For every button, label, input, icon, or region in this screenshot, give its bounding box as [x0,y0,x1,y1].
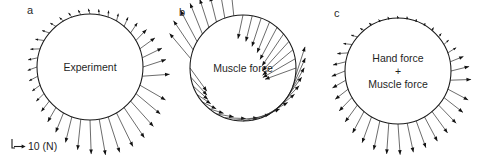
panel-c: cHand force+Muscle force [332,7,471,155]
force-vector-head [126,17,128,20]
force-vector-head [453,48,456,51]
force-vector-head [411,147,415,152]
force-vector-head [107,11,109,14]
force-vector-head [165,73,170,77]
force-vector-head [88,9,90,12]
force-vector-head [28,68,31,70]
force-vector-head [157,48,162,52]
force-vector-head [260,55,264,60]
panel-a: aExperiment [27,4,170,155]
panel-caption-c: Muscle force [368,78,428,90]
force-vector-head [302,47,305,52]
force-vector-shaft [90,120,91,154]
force-vector-head [203,86,207,91]
figure-canvas: aExperimentbMuscle forcecHand force+Musc… [0,0,477,167]
force-vector-head [337,52,340,55]
force-vector-head [463,96,468,100]
force-vector-head [206,100,211,104]
force-field-figure: aExperimentbMuscle forcecHand force+Musc… [0,0,477,167]
force-vector-head [76,145,80,150]
panel-caption-a: Experiment [63,61,116,73]
force-vector-head [161,96,166,100]
force-vector-shaft [108,117,120,153]
force-vector-shaft [99,119,105,155]
force-vector-head [56,127,59,132]
force-vector-head [362,138,365,143]
force-vector-head [219,110,224,113]
force-vector-head [302,58,306,63]
force-vector-shaft [170,34,191,59]
force-vector-shaft [174,21,194,50]
force-vector-head [190,3,193,8]
force-vector-head [252,41,255,46]
force-vector-head [335,95,340,99]
force-vector-head [257,48,260,53]
force-vector-head [332,84,337,88]
force-vector-head [345,117,349,122]
force-vector-shaft [210,0,216,22]
force-vector-head [199,0,202,4]
force-vector-head [458,108,463,112]
panel-caption-c: Hand force [372,52,424,64]
force-vector-head [50,23,53,25]
force-vector-head [161,59,166,62]
force-vector-shaft [260,27,277,59]
force-vector-shaft [221,0,225,18]
force-vector-shaft [398,124,400,155]
force-vector-head [423,143,426,148]
force-vector-head [332,73,337,76]
force-vector-head [373,145,377,150]
panel-label-b: b [179,6,185,18]
force-vector-head [443,128,447,133]
force-vector-shaft [200,0,209,27]
force-vectors-b [170,0,306,121]
force-vector-shaft [124,108,144,138]
panel-label-a: a [27,4,34,16]
force-vector-head [129,142,133,147]
force-vector-head [360,28,363,30]
force-vector-head [117,147,120,152]
force-vector-head [140,133,144,138]
force-vector-head [29,78,32,80]
force-vectors-a [28,9,170,155]
force-vector-head [174,21,178,26]
force-vector-head [211,105,216,109]
force-vector-head [42,30,45,32]
force-vector-shaft [387,123,389,154]
scale-bar-label: 10 (N) [28,140,57,152]
scale-bar-arrow-head [22,145,26,149]
force-vector-head [351,35,354,37]
force-vector-head [459,56,464,59]
force-vector-shaft [117,113,133,147]
scale-bar: 10 (N) [12,139,57,152]
force-vector-head [134,23,137,27]
force-vector-head [385,149,389,154]
force-vector-head [466,78,471,82]
force-vector-head [89,149,93,154]
force-vector-head [30,48,33,50]
force-vector-head [150,38,155,42]
force-vector-head [48,117,52,122]
force-vector-head [78,10,80,13]
force-vector-head [353,128,357,133]
force-vector-shaft [190,3,202,34]
force-vector-head [398,150,402,155]
force-vector-shaft [257,22,269,53]
force-vector-head [237,34,241,39]
panel-b: bMuscle force [170,0,306,121]
force-vector-head [434,136,438,141]
panel-caption-b: Muscle force [213,62,273,74]
force-vector-head [229,114,234,118]
panel-caption-c: + [395,65,401,77]
force-vector-shaft [231,0,233,16]
force-vector-shaft [78,119,81,150]
force-vector-head [103,150,107,155]
panel-label-c: c [334,7,340,19]
